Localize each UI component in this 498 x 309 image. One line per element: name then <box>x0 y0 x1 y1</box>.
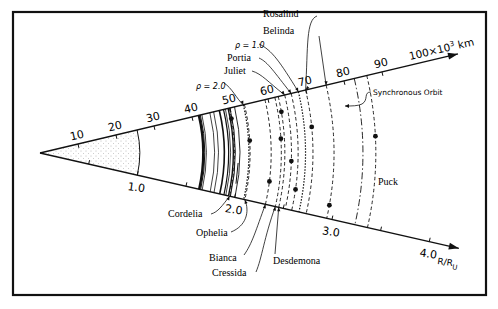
moon-label-puck: Puck <box>378 176 398 187</box>
moon-orbit-arc <box>326 85 334 218</box>
rho-2-label: ρ = 2.0 <box>196 82 226 91</box>
moon-label-cordelia: Cordelia <box>168 208 203 219</box>
moon-label-juliet: Juliet <box>224 65 246 76</box>
synchronous-orbit-arrowhead <box>345 104 349 108</box>
planet-stipple <box>40 130 140 175</box>
moon-dot-rosalind <box>309 124 314 129</box>
lower-axis-tick <box>186 182 187 186</box>
lower-axis-tick-label: 4.0 <box>419 246 438 261</box>
upper-axis-tick-label: 40 <box>183 101 200 117</box>
moon-label-bianca: Bianca <box>209 252 237 263</box>
desdemona-leader <box>275 207 279 254</box>
ring-arc <box>210 113 215 192</box>
moon-dot-belinda <box>327 203 332 208</box>
upper-axis-tick-label: 30 <box>145 110 162 126</box>
synchronous-orbit-leader <box>345 92 371 106</box>
rings <box>199 107 240 198</box>
uranus-inner-moons-diagram: 1020304050607080901.02.03.04.0 100×103 k… <box>0 0 498 309</box>
upper-axis-tick-label: 20 <box>107 119 124 135</box>
moon-label-desdemona: Desdemona <box>273 255 321 266</box>
upper-axis-tick-label: 90 <box>373 56 390 72</box>
moon-dot-juliet <box>289 159 294 164</box>
belinda-leader <box>319 36 326 85</box>
upper-axis-arrowhead <box>447 53 458 60</box>
moon-orbit-arc <box>265 100 271 205</box>
ring-arc <box>219 110 224 193</box>
moon-label-rosalind: Rosalind <box>263 8 299 19</box>
upper-axis-tick <box>382 72 383 76</box>
lower-axis-tick-label: 1.0 <box>127 180 146 195</box>
moon-dot-ophelia <box>247 138 252 143</box>
upper-axis-tick-label: 70 <box>297 74 314 90</box>
planet-region <box>40 130 140 175</box>
moon-orbits <box>229 76 376 228</box>
synchronous-orbit-arc <box>354 79 363 225</box>
moon-markers <box>229 109 378 207</box>
moon-label-cressida: Cressida <box>212 267 247 278</box>
lower-axis-tick-label: 2.0 <box>224 202 243 217</box>
moon-dot-puck <box>373 134 378 139</box>
lower-axis-arrowhead <box>448 243 459 250</box>
roche-limit-arc <box>243 105 249 200</box>
lower-axis-tick <box>381 227 382 231</box>
juliet-leader-arrowhead <box>281 91 285 95</box>
moon-orbit-arc <box>244 105 250 200</box>
moon-dot-cordelia <box>229 116 234 121</box>
bianca-leader-arrowhead <box>263 204 266 208</box>
moon-label-portia: Portia <box>227 52 251 63</box>
moon-orbit-arc <box>306 90 313 214</box>
lower-axis-tick <box>283 204 284 208</box>
moon-dot-cressida <box>279 136 284 141</box>
moon-dot-bianca <box>267 179 272 184</box>
rho-1-label: ρ = 1.0 <box>235 41 265 50</box>
moon-orbit-arc <box>367 76 376 228</box>
moon-label-ophelia: Ophelia <box>196 227 228 238</box>
synchronous-orbit-label: Synchronous Orbit <box>373 88 443 97</box>
upper-axis-tick <box>268 99 269 103</box>
moon-label-belinda: Belinda <box>263 25 295 36</box>
lower-axis-tick <box>429 238 430 242</box>
moon-orbit-arc <box>291 93 298 210</box>
upper-axis-tick <box>344 81 345 85</box>
lower-axis-tick-label: 3.0 <box>321 224 340 239</box>
upper-axis-tick <box>192 117 193 121</box>
upper-axis-tick-label: 10 <box>69 128 86 144</box>
roche-limit-arc <box>298 92 305 212</box>
moon-dot-portia <box>293 187 298 192</box>
upper-axis-tick-label: 80 <box>335 65 352 81</box>
lower-axis-tick <box>332 216 333 220</box>
upper-axis-tick <box>154 126 155 130</box>
moon-dot-desdemona <box>279 109 284 114</box>
rho-1-leader-arrowhead <box>295 87 298 91</box>
lower-axis-label: R/RU <box>436 256 458 272</box>
moon-orbit-arc <box>285 95 292 209</box>
